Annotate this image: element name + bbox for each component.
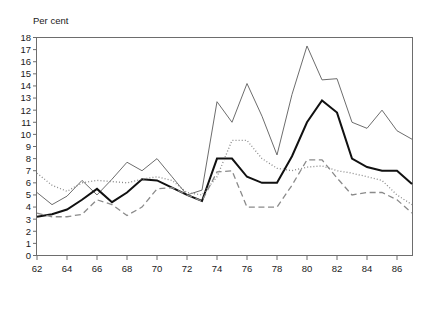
y-tick-label: 4: [26, 201, 31, 212]
y-tick-label: 13: [20, 92, 31, 103]
series-line-west-germany: [37, 160, 412, 217]
y-tick-label: 17: [20, 44, 31, 55]
y-tick-label: 14: [20, 80, 31, 91]
series-line-japan: [37, 140, 412, 204]
y-tick-label: 7: [26, 165, 31, 176]
x-tick-label: 64: [62, 263, 73, 274]
y-tick-label: 2: [26, 226, 31, 237]
y-tick-label: 0: [26, 250, 31, 261]
x-tick-label: 68: [122, 263, 133, 274]
x-tick-label: 80: [302, 263, 313, 274]
axis-tick-marks: [33, 38, 397, 261]
line-chart: Per cent 0123456789101112131415161718 62…: [0, 0, 439, 322]
y-tick-label: 8: [26, 153, 31, 164]
y-tick-label: 12: [20, 105, 31, 116]
chart-figure: Per cent 0123456789101112131415161718 62…: [0, 0, 439, 322]
x-tick-label: 72: [182, 263, 193, 274]
x-tick-label: 70: [152, 263, 163, 274]
plot-frame: [37, 38, 413, 256]
y-tick-label: 10: [20, 129, 31, 140]
y-axis-title: Per cent: [33, 15, 69, 26]
y-tick-label: 6: [26, 177, 31, 188]
x-tick-label: 78: [272, 263, 283, 274]
y-tick-label: 15: [20, 68, 31, 79]
y-tick-label: 16: [20, 56, 31, 67]
x-tick-label: 74: [212, 263, 223, 274]
x-tick-label: 76: [242, 263, 253, 274]
y-tick-label: 11: [21, 117, 31, 128]
y-axis-tick-labels: 0123456789101112131415161718: [20, 32, 31, 261]
y-tick-label: 1: [26, 238, 31, 249]
y-tick-label: 9: [26, 141, 31, 152]
y-tick-label: 3: [26, 214, 31, 225]
x-tick-label: 84: [362, 263, 373, 274]
x-tick-label: 62: [32, 263, 43, 274]
y-tick-label: 18: [20, 32, 31, 43]
data-series-group: [37, 46, 412, 217]
x-axis-tick-labels: 62646668707274767880828486: [32, 263, 403, 274]
x-tick-label: 66: [92, 263, 103, 274]
x-tick-label: 86: [392, 263, 403, 274]
series-line-uk: [37, 46, 412, 205]
y-tick-label: 5: [26, 189, 31, 200]
series-line-usa: [37, 100, 412, 216]
x-tick-label: 82: [332, 263, 343, 274]
